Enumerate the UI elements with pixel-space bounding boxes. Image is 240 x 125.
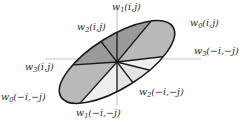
label-w1-ij: w1(i,j) (112, 2, 141, 12)
sector-diagram-figure: w1(i,j) w0(i,j) w2(i,j) w3(−i,−j) w3(i,j… (0, 0, 240, 125)
label-w2-minus-i-minus-j: w2(−i,−j) (139, 87, 184, 97)
label-w3-ij: w3(i,j) (25, 62, 54, 72)
label-w3-minus-i-minus-j: w3(−i,−j) (194, 46, 239, 56)
label-w1-minus-i-minus-j: w1(−i,−j) (76, 108, 121, 118)
label-w0-minus-i-minus-j: w0(−i,−j) (1, 92, 46, 102)
label-w0-ij: w0(i,j) (190, 18, 219, 28)
label-w2-ij: w2(i,j) (77, 22, 106, 32)
